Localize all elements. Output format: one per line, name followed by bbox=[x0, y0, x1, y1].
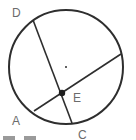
label-E: E bbox=[73, 91, 81, 105]
intersection-point-E bbox=[59, 90, 65, 96]
cropped-glyph-right bbox=[24, 136, 36, 140]
cropped-glyph-left bbox=[3, 136, 15, 140]
circle-chords-diagram: D A E C bbox=[0, 0, 136, 140]
label-D: D bbox=[12, 6, 21, 20]
label-A: A bbox=[12, 114, 20, 128]
center-dot bbox=[65, 66, 67, 68]
label-C: C bbox=[78, 128, 87, 140]
